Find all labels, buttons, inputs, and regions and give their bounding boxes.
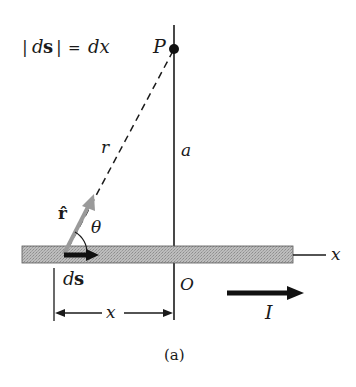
current-wire <box>22 246 293 263</box>
label-ds-d: d <box>63 268 75 289</box>
label-current: I <box>264 301 273 323</box>
current-arrow <box>227 286 304 300</box>
eq-rhs: dx <box>88 36 110 57</box>
biot-savart-diagram: | d s | = dx P r a x r̂ θ d s O <box>0 0 356 387</box>
label-theta: θ <box>91 217 101 237</box>
point-p-dot <box>169 44 179 54</box>
label-x-axis: x <box>331 244 341 264</box>
eq-equals: = <box>68 39 81 57</box>
eq-ds-s: s <box>43 36 53 57</box>
magnitude-equation: | d s | = dx <box>22 36 110 57</box>
label-p: P <box>152 35 167 57</box>
label-r-hat: r̂ <box>58 203 68 223</box>
label-ds-s: s <box>74 268 84 289</box>
label-origin: O <box>180 274 194 294</box>
label-a: a <box>181 140 191 160</box>
label-x-dimension: x <box>106 302 116 322</box>
eq-ds-d: d <box>32 36 44 57</box>
abs-bar-left: | <box>22 37 28 57</box>
label-r: r <box>101 137 110 157</box>
figure-caption: (a) <box>164 346 185 364</box>
abs-bar-right: | <box>56 37 62 57</box>
